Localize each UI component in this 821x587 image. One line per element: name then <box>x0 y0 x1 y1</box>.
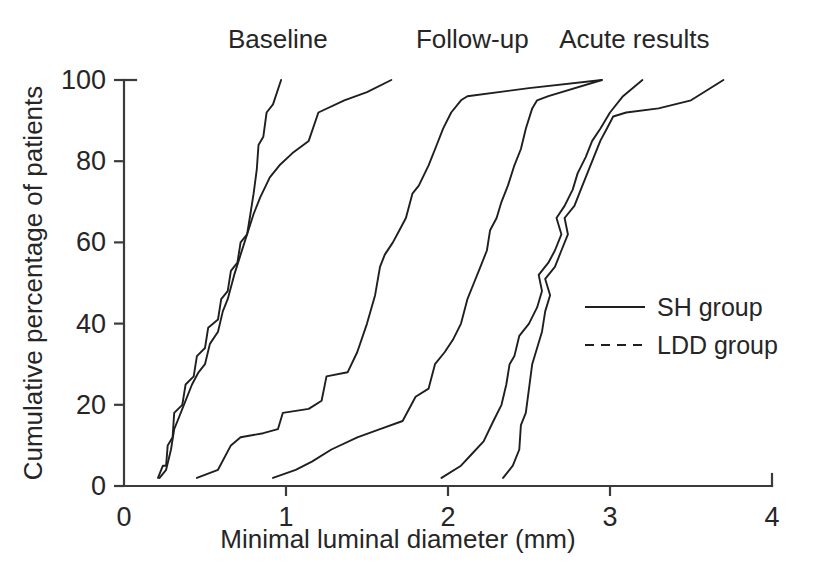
y-tick-label-20: 20 <box>76 390 106 420</box>
x-tick-label-0: 0 <box>116 502 131 532</box>
y-tick-label-0: 0 <box>91 471 106 501</box>
y-tick-label-60: 60 <box>76 227 106 257</box>
legend: SH group LDD group <box>585 293 778 359</box>
series-curves-group <box>158 80 723 478</box>
x-axis-title: Minimal luminal diameter (mm) <box>220 524 575 554</box>
legend-label-ldd-group: LDD group <box>657 331 778 359</box>
y-tick-labels-group: 020406080100 <box>61 65 106 501</box>
panel-label-acute-results: Acute results <box>559 24 709 54</box>
curve-follow-up-ldd-group <box>197 80 602 478</box>
panel-label-baseline: Baseline <box>228 24 328 54</box>
panel-labels-group: BaselineFollow-upAcute results <box>228 24 709 54</box>
panel-label-follow-up: Follow-up <box>416 24 529 54</box>
curve-acute-sh-group <box>503 80 723 478</box>
y-tick-label-80: 80 <box>76 146 106 176</box>
curve-acute-ldd-group <box>442 80 643 478</box>
x-tick-label-4: 4 <box>764 502 779 532</box>
curve-follow-up-sh-group <box>273 80 602 478</box>
chart-figure: BaselineFollow-upAcute results 020406080… <box>0 0 821 587</box>
y-tick-label-100: 100 <box>61 65 106 95</box>
y-ticks-group <box>114 80 124 486</box>
x-tick-label-3: 3 <box>602 502 617 532</box>
y-axis-title: Cumulative percentage of patients <box>18 86 48 481</box>
x-ticks-group <box>286 486 610 496</box>
y-tick-label-40: 40 <box>76 309 106 339</box>
legend-label-sh-group: SH group <box>657 293 763 321</box>
curve-baseline-ldd-group <box>158 80 281 478</box>
cumulative-distribution-chart: BaselineFollow-upAcute results 020406080… <box>0 0 821 587</box>
axes-group <box>114 80 772 496</box>
curve-baseline-sh-group <box>160 80 392 478</box>
